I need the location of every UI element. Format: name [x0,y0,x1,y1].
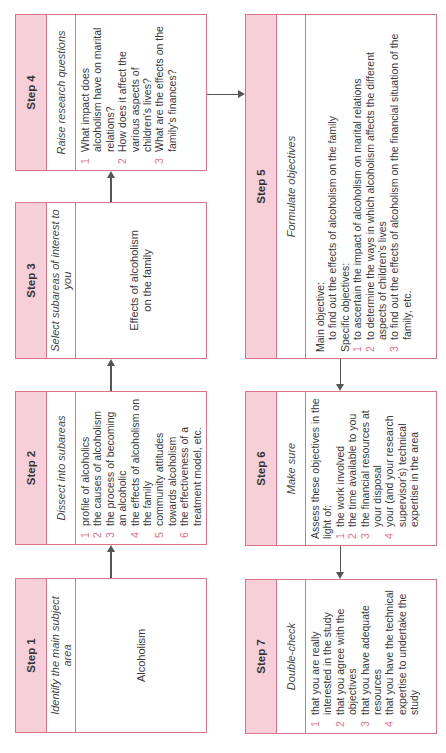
list-item: 2to determine the ways in which alcoholi… [364,21,389,352]
step-6-intro: Assess these objectives in the light of: [309,398,334,539]
step-4-body: 1What impact does alcoholism have on mar… [76,15,206,170]
step-7-box: Step 7 Double-check 1that you are really… [245,579,437,734]
step-5-body: Main objective: to find out the effects … [306,15,436,358]
step-5-title: Step 5 [246,15,277,358]
list-item: 6the effectiveness of a treatment model,… [178,398,203,538]
specific-objectives-label: Specific objectives: [339,21,351,352]
step-6-list: 1the work involved 2the time available t… [334,398,421,539]
step-6-title: Step 6 [246,392,277,545]
list-item: 5community attitudes towards alcoholism [153,398,178,538]
list-item: 2How does it affect the various aspects … [116,21,153,164]
main-objective-text: to find out the effects of alcoholism on… [326,21,338,352]
step-7-subtitle: Double-check [276,580,306,733]
step-1-subtitle: Identify the main subject area [46,579,76,732]
list-item: 2that you agree with the objectives [334,586,359,727]
diagram-stage: Step 1 Identify the main subject area Al… [0,0,446,753]
step-5-subtitle: Formulate objectives [276,15,306,358]
step-2-title: Step 2 [16,392,47,544]
step-4-list: 1What impact does alcoholism have on mar… [79,21,178,164]
list-item: 1profile of alcoholics [79,398,91,538]
step-5-box: Step 5 Formulate objectives Main objecti… [245,14,437,359]
list-item: 2the causes of alcoholism [91,398,103,538]
step-2-box: Step 2 Dissect into subareas 1profile of… [15,391,207,545]
step-4-subtitle: Raise research questions [46,15,76,170]
step-5-list: 1to ascertain the impact of alcoholism o… [351,21,413,352]
step-1-box: Step 1 Identify the main subject area Al… [15,578,207,733]
step-7-list: 1that you are really interested in the s… [309,586,421,727]
step-7-body: 1that you are really interested in the s… [306,580,436,733]
list-item: 1to ascertain the impact of alcoholism o… [351,21,363,352]
step-6-body: Assess these objectives in the light of:… [306,392,436,545]
list-item: 3the financial resources at your disposa… [359,398,384,539]
list-item: 3to find out the effects of alcoholism o… [388,21,413,352]
list-item: 2the time available to you [346,398,358,539]
list-item: 4that you have the technical expertise t… [383,586,420,727]
list-item: 1the work involved [334,398,346,539]
step-2-subtitle: Dissect into subareas [46,392,76,544]
step-1-title: Step 1 [16,579,47,732]
step-2-list: 1profile of alcoholics 2the causes of al… [79,398,203,538]
step-3-subtitle: Select subareas of interest to you [46,203,76,358]
step-3-box: Step 3 Select subareas of interest to yo… [15,202,207,359]
list-item: 4the effects of alcoholism on the family [129,398,154,538]
list-item: 1that you are really interested in the s… [309,586,334,727]
step-2-body: 1profile of alcoholics 2the causes of al… [76,392,206,544]
step-4-box: Step 4 Raise research questions 1What im… [15,14,207,171]
list-item: 4your (and your research supervisor's) t… [383,398,420,539]
main-objective-label: Main objective: [314,21,326,352]
list-item: 3What are the effects on the family's fi… [153,21,178,164]
list-item: 3that you have adequate resources [359,586,384,727]
step-7-title: Step 7 [246,580,277,733]
step-6-subtitle: Make sure [276,392,306,545]
step-6-box: Step 6 Make sure Assess these objectives… [245,391,437,546]
step-4-title: Step 4 [16,15,47,170]
step-3-body: Effects of alcoholism on the family [76,203,206,358]
step-3-title: Step 3 [16,203,47,358]
step-1-body: Alcoholism [76,579,206,732]
list-item: 3the process of becoming an alcoholic [104,398,129,538]
list-item: 1What impact does alcoholism have on mar… [79,21,116,164]
